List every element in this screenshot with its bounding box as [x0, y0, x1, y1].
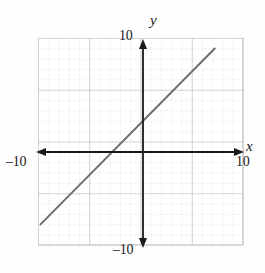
x-axis-label: x	[246, 139, 253, 154]
y-axis-max-tick-label: 10	[119, 29, 132, 43]
y-axis-label: y	[150, 13, 157, 28]
x-axis-max-tick-label: 10	[236, 155, 249, 169]
graph-figure: y x 10 –10 –10 10	[0, 0, 265, 273]
coordinate-plane-svg	[0, 0, 265, 273]
y-axis-min-tick-label: –10	[113, 243, 133, 257]
x-axis-min-tick-label: –10	[6, 155, 26, 169]
grid-major	[38, 38, 243, 245]
